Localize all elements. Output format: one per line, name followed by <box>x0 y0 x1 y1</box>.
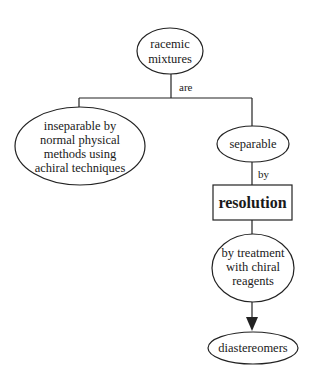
node-inseparable-line-4: achiral techniques <box>35 161 126 175</box>
node-racemic-mixtures: racemic mixtures <box>137 28 203 74</box>
node-inseparable-line-2: normal physical <box>40 133 121 147</box>
node-inseparable-line-1: inseparable by <box>44 119 117 133</box>
node-chiral-line-1: by treatment <box>222 246 285 260</box>
edge-label-by: by <box>258 168 270 180</box>
edge-label-are: are <box>179 81 193 93</box>
node-racemic-line-1: racemic <box>150 37 190 51</box>
node-diastereomers-label: diastereomers <box>218 341 288 355</box>
concept-map-diagram: are by racemic mixtures inseparable by n… <box>0 0 318 377</box>
node-chiral-reagents: by treatment with chiral reagents <box>212 234 294 302</box>
arrowhead-icon <box>246 317 258 331</box>
node-chiral-line-3: reagents <box>232 274 274 288</box>
node-racemic-line-2: mixtures <box>148 52 192 66</box>
node-inseparable-line-3: methods using <box>44 147 117 161</box>
node-resolution: resolution <box>213 185 292 220</box>
node-separable-label: separable <box>229 137 277 151</box>
node-separable: separable <box>217 126 289 162</box>
node-diastereomers: diastereomers <box>208 332 298 364</box>
node-inseparable: inseparable by normal physical methods u… <box>15 107 145 185</box>
node-chiral-line-2: with chiral <box>226 260 280 274</box>
node-resolution-label: resolution <box>218 194 286 211</box>
